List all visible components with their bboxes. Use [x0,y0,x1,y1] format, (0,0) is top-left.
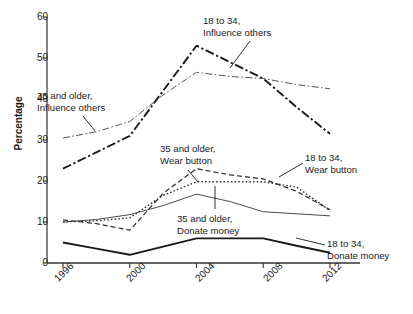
axes [43,17,360,268]
leader-35-influence [83,116,95,131]
series-line-1 [63,72,330,138]
series-line-3 [63,182,330,222]
annotation-leader-lines [83,41,325,245]
leader-18-donate [296,238,325,245]
series-line-4 [63,194,330,222]
series-line-0 [63,46,330,169]
series-line-2 [63,169,330,231]
chart-container: Percentage 60 50 40 30 20 10 0 1996 2000… [0,0,413,314]
series-line-5 [63,238,330,254]
series-lines [63,46,330,255]
x-axis-ticks [63,263,330,268]
plot-area [0,0,413,314]
leader-18-wear [279,163,303,177]
leader-18-influence [230,41,250,68]
